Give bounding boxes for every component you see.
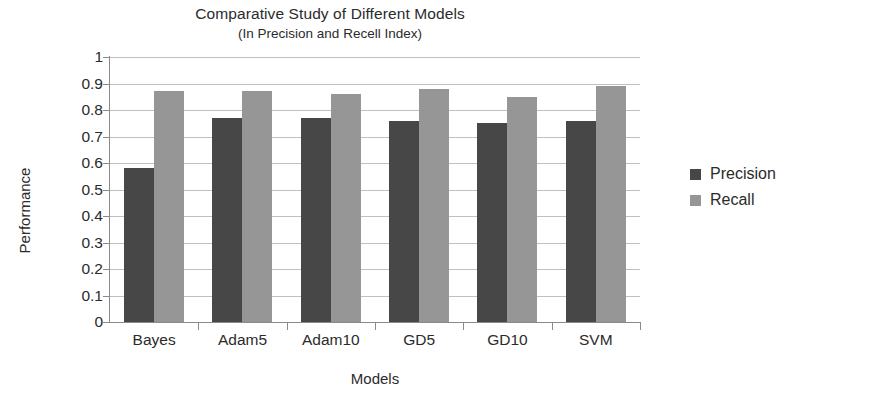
y-axis-tick-label: 0.6 bbox=[81, 155, 103, 171]
y-axis-tick-label: 0.8 bbox=[81, 102, 103, 118]
chart-title: Comparative Study of Different Models bbox=[0, 4, 660, 24]
plot-area bbox=[110, 57, 640, 322]
x-axis-category-label: GD5 bbox=[403, 331, 435, 349]
x-axis-category-label: SVM bbox=[579, 331, 613, 349]
y-axis-tick-label: 0.3 bbox=[81, 235, 103, 251]
legend-item-recall[interactable]: Recall bbox=[690, 187, 860, 213]
legend-swatch-recall-icon bbox=[690, 195, 701, 206]
x-axis-separator-tick bbox=[552, 322, 553, 330]
x-axis-category-label: GD10 bbox=[487, 331, 528, 349]
y-axis-tick bbox=[103, 216, 110, 217]
y-axis-tick-label: 1 bbox=[94, 49, 103, 65]
y-axis-tick bbox=[103, 296, 110, 297]
y-axis-tick bbox=[103, 243, 110, 244]
bar-group bbox=[552, 57, 640, 322]
bar-recall-gd10[interactable] bbox=[507, 97, 537, 322]
bar-recall-adam5[interactable] bbox=[242, 91, 272, 322]
y-axis-tick bbox=[103, 137, 110, 138]
bar-precision-adam10[interactable] bbox=[301, 118, 331, 322]
x-axis-category-label: Bayes bbox=[133, 331, 176, 349]
legend-swatch-precision-icon bbox=[690, 169, 701, 180]
bar-group bbox=[375, 57, 463, 322]
y-axis-title-label: Performance bbox=[17, 167, 34, 253]
bar-recall-svm[interactable] bbox=[596, 86, 626, 322]
bar-precision-bayes[interactable] bbox=[124, 168, 154, 322]
y-axis-tick-label: 0 bbox=[94, 314, 103, 330]
y-axis-title: Performance bbox=[10, 120, 40, 300]
y-axis-tick-label: 0.4 bbox=[81, 208, 103, 224]
y-axis-tick bbox=[103, 57, 110, 58]
y-axis-tick-label: 0.9 bbox=[81, 76, 103, 92]
y-axis-tick bbox=[103, 110, 110, 111]
legend-label-precision: Precision bbox=[710, 165, 776, 183]
x-axis-category-label: Adam10 bbox=[302, 331, 360, 349]
y-axis-tick bbox=[103, 84, 110, 85]
x-axis-category-label: Adam5 bbox=[218, 331, 267, 349]
legend-label-recall: Recall bbox=[710, 191, 754, 209]
bar-recall-bayes[interactable] bbox=[154, 91, 184, 322]
bar-recall-gd5[interactable] bbox=[419, 89, 449, 322]
legend-item-precision[interactable]: Precision bbox=[690, 161, 860, 187]
y-axis-tick-label: 0.2 bbox=[81, 261, 103, 277]
chart-title-block: Comparative Study of Different Models (I… bbox=[0, 4, 660, 43]
y-axis-tick bbox=[103, 322, 110, 323]
x-axis-separator-tick bbox=[463, 322, 464, 330]
x-axis-separator-tick bbox=[640, 322, 641, 330]
x-axis-separator-tick bbox=[198, 322, 199, 330]
bar-precision-adam5[interactable] bbox=[212, 118, 242, 322]
x-axis-separator-tick bbox=[375, 322, 376, 330]
y-axis-tick bbox=[103, 163, 110, 164]
y-axis-tick bbox=[103, 190, 110, 191]
bar-precision-gd10[interactable] bbox=[477, 123, 507, 322]
y-axis-tick-label: 0.5 bbox=[81, 182, 103, 198]
bar-group bbox=[463, 57, 551, 322]
bar-precision-svm[interactable] bbox=[566, 121, 596, 322]
x-axis-title: Models bbox=[110, 370, 640, 387]
bar-recall-adam10[interactable] bbox=[331, 94, 361, 322]
chart-legend: Precision Recall bbox=[690, 161, 860, 213]
x-axis-separator-tick bbox=[287, 322, 288, 330]
bar-group bbox=[198, 57, 286, 322]
bar-chart: Comparative Study of Different Models (I… bbox=[0, 0, 893, 411]
y-axis-tick-labels: 10.90.80.70.60.50.40.30.20.10 bbox=[55, 57, 103, 322]
y-axis-tick-label: 0.1 bbox=[81, 288, 103, 304]
bar-group bbox=[110, 57, 198, 322]
bar-precision-gd5[interactable] bbox=[389, 121, 419, 322]
y-axis-tick bbox=[103, 269, 110, 270]
bar-group bbox=[287, 57, 375, 322]
chart-subtitle: (In Precision and Recell Index) bbox=[0, 24, 660, 43]
y-axis-tick-label: 0.7 bbox=[81, 129, 103, 145]
